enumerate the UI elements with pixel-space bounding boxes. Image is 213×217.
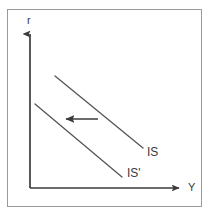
is-prime-curve-label: IS' [127, 167, 141, 179]
is-curve-line [55, 76, 143, 148]
is-curve-diagram: r Y IS IS' [0, 0, 213, 217]
is-prime-curve-line [35, 104, 122, 177]
y-axis-label: r [27, 15, 31, 26]
x-axis-label: Y [188, 182, 195, 193]
plot-area [0, 0, 213, 217]
is-curve-label: IS [147, 146, 158, 158]
